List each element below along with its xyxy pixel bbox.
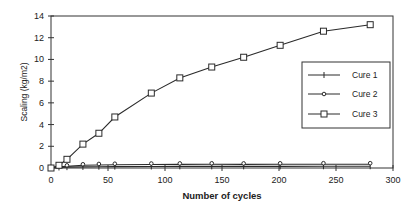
y-tick-label: 14 (34, 11, 44, 21)
scaling-line-chart: 02468101214050100150200250300 Number of … (0, 0, 419, 212)
x-tick-label: 250 (328, 175, 343, 185)
diamond-marker-icon (178, 162, 182, 166)
square-marker-icon (96, 130, 102, 136)
y-tick-label: 4 (39, 120, 44, 130)
x-tick-label: 50 (103, 175, 113, 185)
square-marker-icon (367, 22, 373, 28)
legend-label: Cure 1 (352, 70, 378, 80)
y-tick-label: 0 (39, 163, 44, 173)
y-tick-label: 12 (34, 33, 44, 43)
diamond-marker-icon (97, 162, 101, 166)
square-marker-icon (56, 162, 62, 168)
legend: Cure 1 Cure 2 Cure 3 (302, 62, 390, 128)
square-marker-icon (241, 54, 247, 60)
diamond-marker-icon (65, 164, 69, 168)
square-marker-icon (177, 75, 183, 81)
y-tick-label: 10 (34, 54, 44, 64)
legend-label: Cure 2 (352, 89, 378, 99)
square-marker-icon (209, 64, 215, 70)
square-marker-icon (320, 28, 326, 34)
y-tick-label: 8 (39, 76, 44, 86)
x-tick-label: 100 (157, 175, 172, 185)
diamond-marker-icon (150, 162, 154, 166)
diamond-marker-icon (368, 161, 372, 165)
diamond-marker-icon (322, 161, 326, 165)
x-tick-label: 200 (271, 175, 286, 185)
square-marker-icon (80, 141, 86, 147)
diamond-marker-icon (113, 162, 117, 166)
square-marker-icon (277, 42, 283, 48)
x-tick-label: 300 (385, 175, 400, 185)
square-marker-icon (112, 114, 118, 120)
diamond-marker-icon (322, 92, 326, 96)
y-tick-label: 6 (39, 98, 44, 108)
diamond-marker-icon (242, 162, 246, 166)
x-tick-label: 0 (48, 175, 53, 185)
diamond-marker-icon (81, 162, 85, 166)
y-tick-label: 2 (39, 141, 44, 151)
x-tick-label: 150 (214, 175, 229, 185)
square-marker-icon (321, 111, 327, 117)
square-marker-icon (48, 165, 54, 171)
square-marker-icon (148, 90, 154, 96)
diamond-marker-icon (278, 162, 282, 166)
y-axis-title: Scaling (kg/m2) (19, 62, 29, 121)
square-marker-icon (64, 156, 70, 162)
legend-label: Cure 3 (352, 109, 378, 119)
diamond-marker-icon (210, 162, 214, 166)
x-axis-title: Number of cycles (182, 190, 261, 201)
